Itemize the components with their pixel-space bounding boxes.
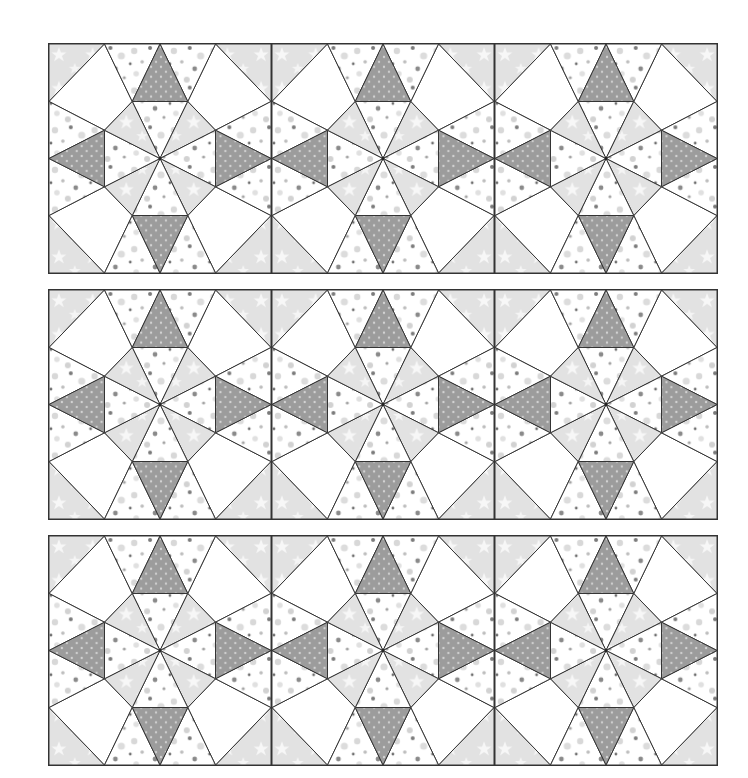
quilt-block — [49, 536, 271, 765]
quilt-block — [49, 290, 271, 519]
quilt-block — [272, 44, 494, 273]
quilt-block — [272, 290, 494, 519]
quilt-panel-3 — [48, 535, 718, 766]
quilt-block — [272, 536, 494, 765]
quilt-block — [49, 290, 271, 519]
quilt-block — [494, 536, 717, 765]
quilt-block — [494, 290, 717, 519]
quilt-block — [271, 44, 494, 273]
quilt-block — [49, 536, 271, 765]
quilt-block — [271, 290, 494, 519]
quilt-panel-2 — [48, 289, 718, 520]
quilt-block — [49, 44, 271, 273]
quilt-block — [271, 536, 494, 765]
quilt-block — [495, 536, 717, 765]
quilt-block — [49, 44, 271, 273]
quilt-block — [495, 44, 717, 273]
quilt-block — [495, 290, 717, 519]
quilt-block — [494, 44, 717, 273]
quilt-panel-1 — [48, 43, 718, 274]
